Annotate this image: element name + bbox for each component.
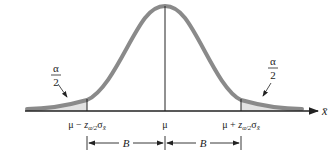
mean-label: μ	[162, 119, 167, 130]
upper-bound-label: μ + zα/2σx̄	[222, 119, 260, 132]
svg-text:2: 2	[270, 69, 276, 81]
right-pointer-arrow	[263, 83, 271, 96]
right-bound-dimension: B	[165, 136, 241, 150]
normal-curve-diagram: x̄ α 2 α 2 μ − zα/2σx̄ μ μ + zα/2σx̄ B B	[0, 0, 335, 157]
lower-bound-label: μ − zα/2σx̄	[68, 119, 106, 132]
axis-variable-label: x̄	[321, 104, 328, 118]
left-alpha-label: α 2	[51, 62, 67, 97]
left-bound-dimension: B	[87, 136, 163, 150]
left-pointer-arrow	[58, 84, 67, 97]
svg-text:B: B	[200, 137, 207, 149]
svg-text:B: B	[123, 137, 130, 149]
right-alpha-label: α 2	[263, 55, 278, 96]
svg-text:α: α	[53, 62, 59, 74]
svg-text:α: α	[270, 55, 276, 67]
svg-text:2: 2	[53, 76, 59, 88]
